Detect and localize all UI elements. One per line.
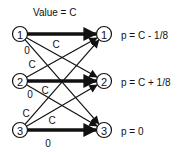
prob-label-2: p = C + 1/8: [121, 77, 171, 88]
edge-label: C: [28, 59, 35, 70]
edge-label: C: [52, 39, 59, 50]
prob-label-1: p = C - 1/8: [121, 30, 168, 41]
right-node-1-label: 1: [101, 29, 107, 41]
left-node-3: 3: [13, 123, 28, 138]
right-node-2: 2: [97, 74, 112, 89]
right-node-3: 3: [97, 123, 112, 138]
thick-edges: [28, 34, 97, 130]
left-node-1: 1: [13, 27, 28, 42]
left-node-1-label: 1: [17, 29, 23, 41]
transition-diagram: Value = C 1 2 3 1 2 3 p = C - 1/8 p: [0, 0, 184, 152]
left-node-3-label: 3: [17, 125, 23, 137]
edge-label: 0: [24, 45, 30, 56]
right-node-1: 1: [97, 27, 112, 42]
right-node-2-label: 2: [101, 76, 107, 88]
edge-label: 0: [27, 89, 33, 100]
right-node-3-label: 3: [101, 125, 107, 137]
edge-label: C: [48, 115, 55, 126]
left-node-2: 2: [13, 74, 28, 89]
prob-label-3: p = 0: [121, 126, 144, 137]
edge-label: C: [22, 108, 29, 119]
edge-label: C: [41, 85, 48, 96]
left-node-2-label: 2: [17, 76, 23, 88]
edge-label: 0: [45, 138, 51, 149]
value-title: Value = C: [33, 7, 76, 18]
